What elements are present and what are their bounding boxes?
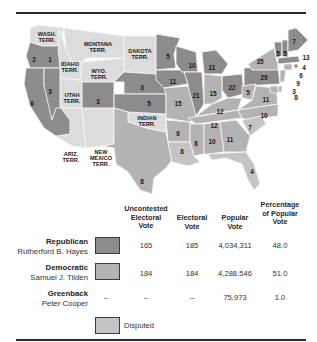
- indiana: [204, 74, 222, 104]
- candidate-name: Samuel J. Tilden: [0, 273, 88, 283]
- party-cell: Republican Rutherford B. Hayes: [0, 237, 88, 256]
- svg-text:8: 8: [180, 148, 184, 155]
- uncontested-value: –: [126, 293, 166, 302]
- svg-text:6: 6: [176, 130, 180, 137]
- oregon: [26, 42, 60, 68]
- percentage-value: 48.0: [260, 241, 300, 250]
- svg-text:5: 5: [283, 50, 287, 57]
- svg-text:8: 8: [194, 140, 198, 147]
- header-percentage: Percentage of Popular Vote: [250, 201, 310, 227]
- svg-text:8: 8: [294, 94, 298, 101]
- svg-text:11: 11: [263, 96, 270, 103]
- popular-value: 4,288,546: [212, 269, 258, 278]
- svg-text:TERR.: TERR.: [90, 47, 107, 53]
- disputed-swatch: [95, 317, 120, 334]
- svg-text:3: 3: [140, 84, 144, 91]
- party-name: Democratic: [0, 263, 88, 273]
- svg-text:4: 4: [250, 168, 254, 175]
- uncontested-value: 165: [126, 241, 166, 250]
- svg-text:TERR.: TERR.: [62, 67, 79, 73]
- header-uncontested: Uncontested Electoral Vote: [120, 205, 172, 231]
- svg-text:13: 13: [302, 54, 310, 61]
- svg-text:2: 2: [32, 56, 36, 63]
- electoral-value: 184: [172, 269, 212, 278]
- party-name: Greenback: [0, 289, 88, 299]
- svg-text:TERR.: TERR.: [139, 121, 156, 127]
- svg-text:10: 10: [260, 112, 268, 119]
- delaware: [278, 86, 282, 92]
- svg-text:11: 11: [170, 78, 177, 85]
- svg-text:1: 1: [48, 56, 52, 63]
- party-cell: Democratic Samuel J. Tilden: [0, 263, 88, 282]
- electoral-map: WASH.TERR. MONTANATERR. DAKOTATERR. IDAH…: [16, 24, 316, 200]
- party-name: Republican: [0, 237, 88, 247]
- svg-text:TERR.: TERR.: [64, 98, 81, 104]
- bottom-rule: [16, 339, 306, 341]
- percentage-value: 51.0: [260, 269, 300, 278]
- svg-text:22: 22: [228, 84, 236, 91]
- candidate-name: Rutherford B. Hayes: [0, 247, 88, 257]
- svg-text:15: 15: [209, 90, 217, 97]
- table-row-greenback: Greenback Peter Cooper – – – 75,973 1.0: [0, 287, 317, 311]
- header-electoral: Electoral Vote: [170, 214, 214, 231]
- massachusetts: [278, 56, 300, 64]
- new-jersey: [280, 70, 286, 82]
- popular-value: 4,034,311: [212, 241, 258, 250]
- rhode-island: [294, 64, 298, 68]
- svg-text:5: 5: [246, 89, 250, 96]
- svg-text:TERR.: TERR.: [132, 54, 149, 60]
- disputed-label: Disputed: [124, 321, 154, 330]
- new-mexico-terr: [82, 108, 114, 148]
- svg-text:TERR.: TERR.: [39, 37, 56, 43]
- percentage-value: 1.0: [260, 293, 300, 302]
- svg-text:12: 12: [210, 122, 218, 129]
- svg-text:3: 3: [96, 98, 100, 105]
- svg-text:6: 6: [30, 100, 34, 107]
- svg-text:5: 5: [147, 100, 151, 107]
- svg-text:9: 9: [296, 80, 300, 87]
- svg-text:3: 3: [48, 88, 52, 95]
- swatch-placeholder-dash: –: [98, 293, 114, 302]
- democratic-swatch: [95, 263, 120, 280]
- table-row-republican: Republican Rutherford B. Hayes 165 185 4…: [0, 235, 317, 259]
- popular-value: 75,973: [212, 293, 258, 302]
- svg-text:7: 7: [248, 124, 252, 131]
- svg-text:12: 12: [216, 108, 224, 115]
- svg-text:6: 6: [299, 72, 303, 79]
- candidate-name: Peter Cooper: [0, 299, 88, 309]
- svg-text:11: 11: [209, 64, 216, 71]
- svg-text:TERR.: TERR.: [91, 74, 108, 80]
- svg-text:TERR.: TERR.: [63, 157, 80, 163]
- svg-text:4: 4: [302, 64, 306, 71]
- table-row-democratic: Democratic Samuel J. Tilden 184 184 4,28…: [0, 261, 317, 285]
- svg-text:10: 10: [188, 62, 196, 69]
- electoral-value: –: [172, 293, 212, 302]
- top-rule: [16, 12, 306, 14]
- svg-text:7: 7: [292, 38, 296, 45]
- svg-text:10: 10: [208, 138, 216, 145]
- uncontested-value: 184: [126, 269, 166, 278]
- svg-text:21: 21: [192, 92, 200, 99]
- svg-text:TERR.: TERR.: [93, 161, 110, 167]
- svg-text:11: 11: [227, 136, 234, 143]
- connecticut: [284, 64, 292, 70]
- republican-swatch: [95, 237, 120, 254]
- svg-text:35: 35: [256, 58, 264, 65]
- party-cell: Greenback Peter Cooper: [0, 289, 88, 308]
- svg-text:5: 5: [166, 53, 170, 60]
- electoral-value: 185: [172, 241, 212, 250]
- maine: [288, 28, 308, 52]
- svg-text:8: 8: [140, 178, 144, 185]
- svg-text:29: 29: [260, 74, 268, 81]
- svg-text:15: 15: [174, 100, 182, 107]
- svg-text:5: 5: [276, 50, 280, 57]
